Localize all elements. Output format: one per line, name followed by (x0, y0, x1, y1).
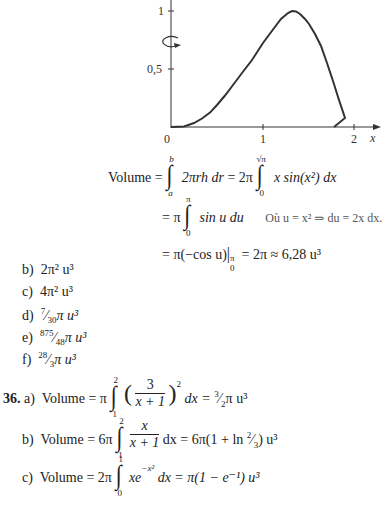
curve-end (0, 0, 391, 150)
solution-line-2: = π π ∫ 0 sin u du Où u = x² ⇒ du = 2x d… (162, 198, 382, 234)
solution-line-1: Volume = b ∫ a 2πrh dr = 2π √π ∫ 0 x sin… (108, 158, 336, 194)
problem-36-a: 36. a) Volume = π 2 ∫ 1 ( 3 x + 1 )2 dx … (3, 372, 247, 412)
answer-c: c) 4π² u³ (22, 284, 73, 300)
solution-line-3: = π(−cos u)|π0 = 2π ≈ 6,28 u³ (162, 245, 321, 263)
problem-36-b: b) Volume = 6π 2 ∫ 1 x x + 1 dx = 6π(1 +… (22, 414, 277, 454)
answer-b: b) 2π² u³ (22, 262, 74, 278)
answer-e: e) 875⁄48π u³ (22, 328, 86, 347)
answer-d: d) 7⁄30π u³ (22, 306, 78, 325)
problem-36-c: c) Volume = 2π 1 ∫ 0 xe−x² dx = π(1 − e⁻… (22, 456, 260, 496)
answer-f: f) 28⁄3π u³ (22, 350, 76, 369)
